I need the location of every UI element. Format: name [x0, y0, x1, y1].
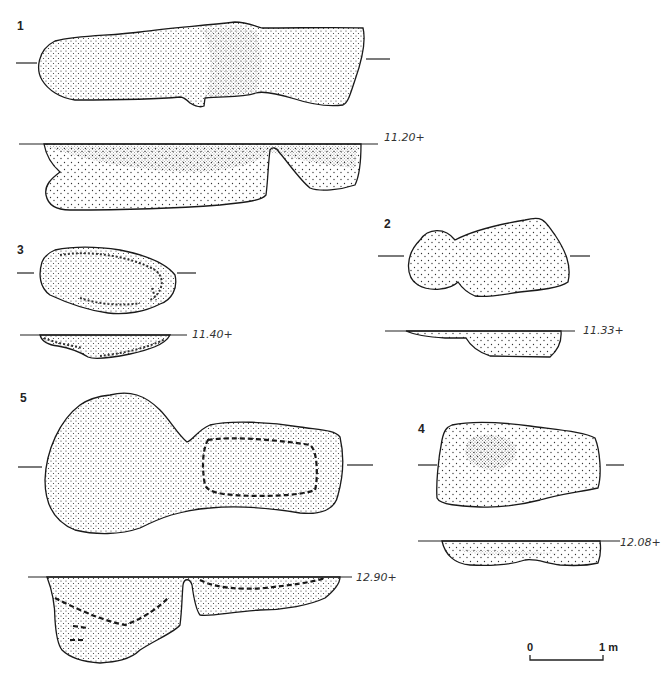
- scale-bar-start-label: 0: [527, 641, 533, 653]
- feature-5: 5 12.90+: [18, 391, 397, 663]
- scale-bar-end-label: 1 m: [599, 641, 618, 653]
- feature-2: 2 11.33+: [378, 217, 624, 357]
- feature-1-plan: [16, 22, 390, 107]
- feature-3-plan: [17, 247, 196, 313]
- feature-5-section-outline: [47, 577, 340, 663]
- feature-5-plan-outline: [45, 393, 343, 533]
- feature-3: 3 11.40+: [17, 243, 233, 358]
- scale-bar: 0 1 m: [527, 641, 618, 660]
- feature-1-label: 1: [17, 19, 24, 33]
- feature-1: 1 11.20+: [16, 19, 425, 210]
- feature-1-section: 11.20+: [19, 131, 425, 210]
- feature-3-section: 11.40+: [20, 328, 233, 358]
- feature-2-plan: [378, 218, 590, 296]
- feature-4-label: 4: [418, 422, 425, 436]
- feature-2-plan-outline: [408, 218, 569, 296]
- feature-4-section: 12.08+: [418, 536, 661, 565]
- feature-4: 4 12.08+: [418, 422, 661, 565]
- feature-2-section: 11.33+: [385, 324, 624, 357]
- feature-5-label: 5: [20, 391, 27, 405]
- feature-5-plan: [18, 393, 373, 533]
- figure-canvas: 1 11.20+ 3 11.40+: [0, 0, 665, 673]
- feature-4-plan: [418, 422, 624, 507]
- feature-4-elevation: 12.08+: [620, 536, 661, 549]
- feature-3-label: 3: [17, 243, 24, 257]
- feature-2-label: 2: [384, 217, 391, 231]
- feature-5-section: 12.90+: [28, 571, 397, 663]
- feature-1-elevation: 11.20+: [384, 131, 425, 144]
- feature-4-plan-outline: [437, 422, 600, 507]
- feature-2-elevation: 11.33+: [583, 324, 624, 337]
- scale-bar-line: [530, 655, 603, 660]
- feature-1-plan-outline: [39, 22, 364, 107]
- feature-3-elevation: 11.40+: [192, 328, 233, 341]
- feature-2-section-outline: [406, 331, 561, 357]
- feature-5-elevation: 12.90+: [356, 571, 397, 584]
